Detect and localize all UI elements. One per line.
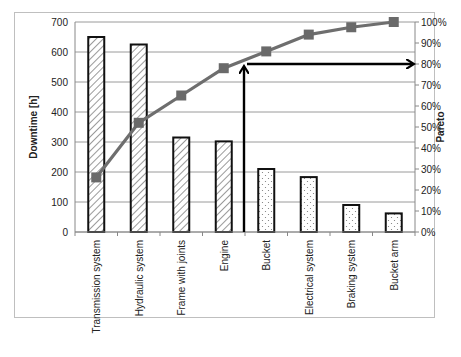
pareto-marker (389, 17, 399, 27)
y2-tick-label: 60% (421, 101, 441, 112)
pareto-marker (176, 91, 186, 101)
pareto-marker (346, 22, 356, 32)
y-tick-label: 700 (51, 17, 68, 28)
pareto-marker (304, 30, 314, 40)
pareto-marker (261, 46, 271, 56)
y2-tick-label: 30% (421, 164, 441, 175)
y-tick-label: 200 (51, 167, 68, 178)
x-category-label: Electrical system (304, 240, 315, 315)
y-axis-left: 0100200300400500600700 (51, 17, 75, 238)
pareto-marker (134, 118, 144, 128)
bar (216, 141, 232, 232)
y-tick-label: 400 (51, 107, 68, 118)
y-tick-label: 0 (62, 227, 68, 238)
x-category-label: Transmission system (91, 240, 102, 334)
y-tick-label: 100 (51, 197, 68, 208)
pareto-marker (219, 63, 229, 73)
y2-tick-label: 100% (421, 17, 447, 28)
bar (386, 213, 402, 232)
y2-tick-label: 80% (421, 59, 441, 70)
y-tick-label: 600 (51, 47, 68, 58)
pareto-chart: 0100200300400500600700 0%10%20%30%40%50%… (0, 0, 461, 357)
bar (173, 138, 189, 233)
bar (301, 177, 317, 232)
bar (258, 169, 274, 232)
y-axis-title: Downtime [h] (28, 95, 39, 158)
x-category-label: Engine (219, 240, 230, 272)
x-category-label: Braking system (346, 240, 357, 308)
y2-tick-label: 40% (421, 143, 441, 154)
y2-tick-label: 0% (421, 227, 436, 238)
y2-tick-label: 90% (421, 38, 441, 49)
y2-axis-title: Pareto (435, 111, 446, 142)
y2-tick-label: 20% (421, 185, 441, 196)
bar (343, 205, 359, 232)
bar (88, 37, 104, 232)
x-category-label: Bucket (261, 240, 272, 271)
y-tick-label: 300 (51, 137, 68, 148)
x-axis-categories: Transmission systemHydraulic systemFrame… (91, 240, 400, 334)
x-category-label: Hydraulic system (134, 240, 145, 316)
y2-tick-label: 70% (421, 80, 441, 91)
pareto-marker (91, 172, 101, 182)
bar (131, 45, 147, 233)
x-category-label: Frame with joints (176, 240, 187, 316)
x-category-label: Bucket arm (389, 240, 400, 291)
y2-tick-label: 10% (421, 206, 441, 217)
y-tick-label: 500 (51, 77, 68, 88)
